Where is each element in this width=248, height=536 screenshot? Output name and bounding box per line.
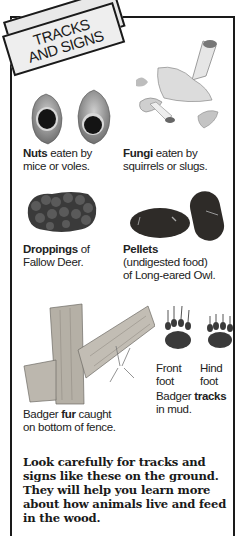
- nuts-caption: Nuts eaten bymice or voles.: [23, 147, 92, 173]
- body-paragraph: Look carefully for tracks and signs like…: [23, 455, 233, 525]
- pellets-illustration: [128, 187, 233, 247]
- nuts-illustration: [26, 88, 116, 150]
- hind-foot-label: Hindfoot: [200, 362, 222, 388]
- fungi-caption: Fungi eaten bysquirrels or slugs.: [123, 147, 207, 173]
- fence-illustration: [20, 296, 155, 406]
- tracks-caption: Badger tracksin mud.: [156, 390, 226, 416]
- droppings-caption: Droppings ofFallow Deer.: [23, 243, 90, 269]
- front-foot-label: Frontfoot: [156, 362, 181, 388]
- fur-caption: Badger fur caughton bottom of fence.: [23, 408, 116, 434]
- pellets-caption: Pellets(undigested food)of Long-eared Ow…: [123, 243, 215, 282]
- fungi-illustration: [128, 36, 233, 131]
- droppings-illustration: [22, 188, 102, 238]
- paw-prints-illustration: [160, 304, 236, 354]
